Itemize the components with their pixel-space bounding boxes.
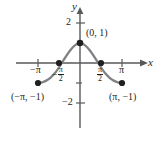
x-tick-label-minus-pi-over-2: −π2: [52, 66, 64, 84]
point-label-right-minimum: (π, −1): [109, 92, 136, 102]
fraction-numerator: π: [58, 66, 64, 74]
point-right-minimum: [119, 80, 125, 86]
fraction-pi-over-2: π2: [97, 66, 103, 83]
x-axis-label: x: [148, 57, 153, 68]
y-axis-label: y: [72, 1, 77, 12]
y-axis: [77, 7, 84, 128]
x-tick-label-minus-pi: −π: [30, 65, 41, 75]
point-left-minimum: [35, 80, 41, 86]
point-label-left-minimum: (−π, −1): [11, 92, 44, 102]
fraction-pi-over-2: π2: [58, 66, 64, 83]
y-tick-label-minus-2: −2: [62, 97, 73, 107]
fraction-numerator: π: [97, 66, 103, 74]
x-tick-label-pi: π: [119, 65, 124, 75]
point-maximum: [77, 40, 84, 47]
graph-canvas: [0, 0, 158, 143]
x-tick-label-pi-over-2: π2: [97, 66, 103, 84]
fraction-denominator: 2: [97, 74, 103, 83]
point-label-maximum: (0, 1): [86, 28, 108, 38]
fraction-denominator: 2: [58, 74, 64, 83]
cosine-graph-figure: y x 2 −2 −π −π2 π2 π (0, 1) (−π, −1) (π,…: [0, 0, 158, 143]
y-tick-label-2: 2: [66, 17, 71, 27]
